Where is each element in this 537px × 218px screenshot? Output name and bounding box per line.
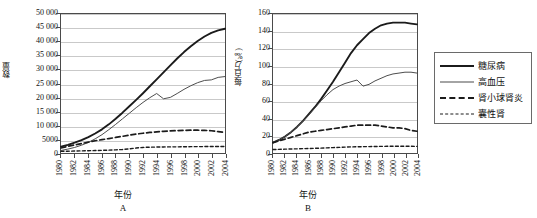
- y-tick-label: 30 000: [0, 65, 62, 73]
- x-tick-label: 1994: [353, 160, 361, 176]
- x-tick-mark: [74, 154, 75, 158]
- y-tick-label: 10 000: [0, 122, 62, 130]
- x-tick-mark: [394, 154, 395, 158]
- legend-item-label: 囊性肾: [478, 109, 505, 119]
- x-tick-mark: [309, 154, 310, 158]
- x-tick-mark: [198, 154, 199, 158]
- legend-item-糖尿病[interactable]: 糖尿病: [440, 58, 526, 74]
- x-tick-label: 1982: [280, 160, 288, 176]
- legend-swatch-icon: [440, 77, 474, 87]
- panel-b-plot-area: [272, 13, 418, 154]
- legend-item-囊性肾[interactable]: 囊性肾: [440, 106, 526, 122]
- panel-b-letter: B: [210, 203, 406, 213]
- y-tick-label: 40 000: [0, 37, 62, 45]
- series-line-囊性肾: [273, 146, 417, 149]
- panel-b-series-layer: [273, 14, 417, 153]
- panel-a: 数量 0500010 00015 00020 00025 00030 00035…: [0, 0, 246, 218]
- panel-a-plot-area: [60, 13, 226, 154]
- x-tick-label: 1982: [70, 160, 78, 176]
- y-tick-label: 0: [0, 150, 62, 158]
- legend-swatch-icon: [440, 109, 474, 119]
- x-tick-label: 2000: [390, 160, 398, 176]
- legend: 糖尿病高血压肾小球肾炎囊性肾: [434, 52, 532, 124]
- x-tick-label: 1992: [341, 160, 349, 176]
- x-tick-label: 1990: [329, 160, 337, 176]
- legend-item-label: 肾小球肾炎: [478, 93, 523, 103]
- y-tick-label: 50 000: [0, 9, 62, 17]
- x-tick-label: 1988: [111, 160, 119, 176]
- x-tick-mark: [102, 154, 103, 158]
- x-tick-mark: [185, 154, 186, 158]
- x-tick-mark: [157, 154, 158, 158]
- x-tick-label: 1980: [268, 160, 276, 176]
- x-tick-mark: [272, 154, 273, 158]
- x-tick-label: 1986: [305, 160, 313, 176]
- x-tick-label: 1984: [292, 160, 300, 176]
- x-tick-mark: [382, 154, 383, 158]
- x-tick-label: 2000: [194, 160, 202, 176]
- legend-swatch-icon: [440, 61, 474, 71]
- x-tick-mark: [296, 154, 297, 158]
- panel-b-x-axis-label: 年份: [210, 190, 406, 200]
- panel-b: 每百万(‰) 020406080100120140160 19801982198…: [232, 0, 428, 218]
- x-tick-label: 2002: [208, 160, 216, 176]
- y-tick-label: 20 000: [0, 94, 62, 102]
- series-line-糖尿病: [273, 23, 417, 143]
- x-tick-mark: [115, 154, 116, 158]
- x-tick-mark: [143, 154, 144, 158]
- x-tick-mark: [171, 154, 172, 158]
- x-tick-mark: [212, 154, 213, 158]
- x-tick-label: 2004: [414, 160, 422, 176]
- x-tick-label: 1998: [181, 160, 189, 176]
- x-tick-mark: [321, 154, 322, 158]
- legend-item-label: 高血压: [478, 77, 505, 87]
- x-tick-label: 2002: [402, 160, 410, 176]
- x-tick-label: 1986: [98, 160, 106, 176]
- legend-item-肾小球肾炎[interactable]: 肾小球肾炎: [440, 90, 526, 106]
- series-line-囊性肾: [61, 146, 225, 151]
- y-tick-label: 15 000: [0, 108, 62, 116]
- x-tick-label: 1998: [378, 160, 386, 176]
- x-tick-mark: [88, 154, 89, 158]
- x-tick-mark: [333, 154, 334, 158]
- series-line-高血压: [273, 72, 417, 142]
- x-tick-label: 1996: [365, 160, 373, 176]
- x-tick-mark: [369, 154, 370, 158]
- x-tick-label: 2004: [222, 160, 230, 176]
- y-tick-label: 45 000: [0, 23, 62, 31]
- figure-container: 数量 0500010 00015 00020 00025 00030 00035…: [0, 0, 537, 218]
- x-tick-label: 1988: [317, 160, 325, 176]
- panel-a-series-layer: [61, 14, 225, 153]
- x-tick-mark: [60, 154, 61, 158]
- series-line-糖尿病: [61, 29, 225, 147]
- x-tick-mark: [129, 154, 130, 158]
- x-tick-mark: [284, 154, 285, 158]
- legend-item-高血压[interactable]: 高血压: [440, 74, 526, 90]
- legend-swatch-icon: [440, 93, 474, 103]
- x-tick-label: 1992: [139, 160, 147, 176]
- x-tick-label: 1984: [84, 160, 92, 176]
- legend-item-label: 糖尿病: [478, 61, 505, 71]
- x-tick-label: 1990: [125, 160, 133, 176]
- x-tick-label: 1994: [153, 160, 161, 176]
- y-tick-label: 25 000: [0, 80, 62, 88]
- x-tick-mark: [345, 154, 346, 158]
- x-tick-label: 1980: [56, 160, 64, 176]
- x-tick-label: 1996: [167, 160, 175, 176]
- x-tick-mark: [226, 154, 227, 158]
- y-tick-label: 35 000: [0, 51, 62, 59]
- x-tick-mark: [406, 154, 407, 158]
- y-tick-label: 5000: [0, 136, 62, 144]
- x-tick-mark: [418, 154, 419, 158]
- x-tick-mark: [357, 154, 358, 158]
